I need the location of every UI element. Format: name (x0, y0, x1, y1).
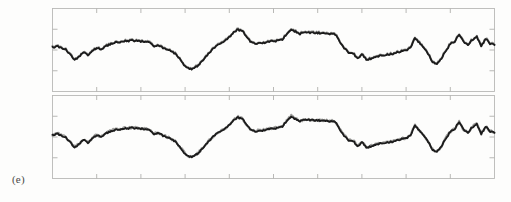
plot-frame (53, 96, 495, 179)
plot-panel-upper (53, 9, 495, 92)
plot-panel-lower (53, 96, 495, 179)
figure-panel-e: (e) (0, 0, 511, 202)
panel-label: (e) (12, 174, 25, 185)
trace-measured (53, 115, 495, 158)
trace-measured (53, 28, 495, 69)
trace-model (53, 29, 495, 69)
trace-model (53, 117, 495, 158)
plot-frame (53, 9, 495, 92)
timeseries-plots (0, 0, 511, 202)
